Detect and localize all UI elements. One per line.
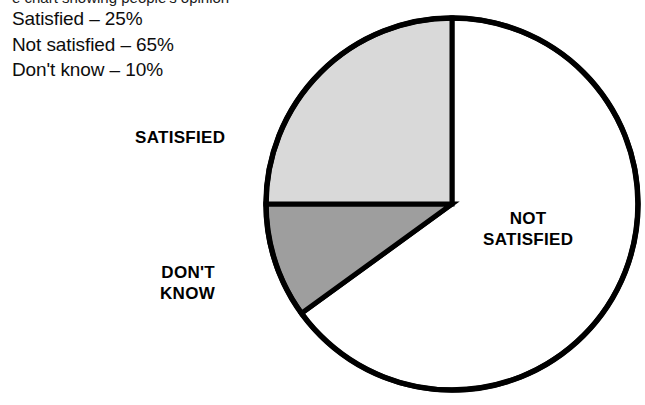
pie-svg xyxy=(258,10,645,400)
pie-label-dont-know-line1: DON'T xyxy=(161,263,215,282)
pie-label-dont-know: DON'T KNOW xyxy=(160,262,215,304)
pie-graphic xyxy=(258,10,645,400)
pie-label-dont-know-line2: KNOW xyxy=(160,283,215,304)
pie-label-not-satisfied-line1: NOT xyxy=(510,209,547,228)
pie-label-not-satisfied-line2: SATISFIED xyxy=(483,229,573,250)
pie-label-satisfied-text: SATISFIED xyxy=(135,128,225,147)
pie-label-not-satisfied: NOT SATISFIED xyxy=(483,208,573,250)
pie-label-satisfied: SATISFIED xyxy=(135,127,225,148)
